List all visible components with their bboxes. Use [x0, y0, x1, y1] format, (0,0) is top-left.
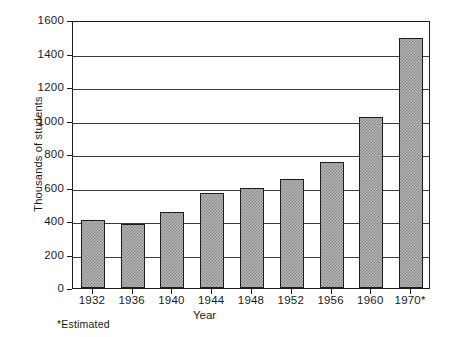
y-axis-tick-label: 800	[20, 148, 64, 160]
y-axis-tick-label: 1200	[20, 81, 64, 93]
gridline	[73, 89, 429, 90]
bar-1956	[320, 162, 344, 288]
x-axis-title-text: Year	[193, 309, 216, 321]
bar-1940	[160, 212, 184, 288]
y-axis-tick-label: 1400	[20, 48, 64, 60]
y-axis-tick-mark	[67, 289, 72, 290]
gridline	[73, 56, 429, 57]
y-axis-tick-label: 600	[20, 182, 64, 194]
bar-1948	[240, 188, 264, 289]
plot-area	[72, 21, 430, 289]
footnote-estimated: *Estimated	[57, 318, 110, 330]
y-axis-tick-label: 200	[20, 249, 64, 261]
bar-1960	[359, 117, 383, 288]
bar-1970-est	[399, 38, 423, 288]
bar-1944	[200, 193, 224, 289]
y-axis-tick-label: 1600	[20, 14, 64, 26]
y-axis-tick-label: 0	[20, 282, 64, 294]
x-axis-tick-label: 1970*	[380, 294, 440, 306]
bar-chart-figure: Thousands of students 020040060080010001…	[0, 0, 453, 337]
y-axis-tick-label: 400	[20, 215, 64, 227]
bar-1932	[81, 220, 105, 288]
bar-1952	[280, 179, 304, 288]
bar-1936	[121, 224, 145, 289]
y-axis-tick-label: 1000	[20, 115, 64, 127]
